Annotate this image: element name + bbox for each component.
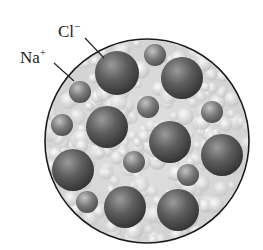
sodium-symbol: Na	[20, 48, 40, 67]
sodium-ion	[177, 164, 199, 186]
chloride-ion	[201, 134, 243, 176]
chloride-ion	[104, 186, 146, 228]
chloride-ion	[161, 57, 203, 99]
chloride-ion	[157, 189, 199, 231]
chloride-ion	[95, 51, 139, 95]
water-molecule	[217, 89, 226, 98]
sodium-ion	[123, 151, 145, 173]
sodium-ion	[137, 96, 159, 118]
water-molecule	[169, 112, 178, 121]
water-molecule	[95, 148, 105, 158]
chloride-symbol: Cl	[58, 22, 74, 41]
solution-region	[38, 35, 255, 247]
water-molecule	[241, 136, 255, 150]
water-molecule	[227, 181, 236, 190]
sodium-label: Na+	[20, 49, 46, 66]
chloride-ion	[149, 121, 191, 163]
chloride-charge: −	[74, 20, 80, 32]
water-molecule	[83, 211, 98, 226]
water-molecule	[176, 108, 193, 125]
chloride-ion	[86, 106, 128, 148]
sodium-ion	[69, 81, 91, 103]
chloride-ion	[52, 149, 94, 191]
water-molecule	[85, 102, 94, 111]
water-molecule	[138, 130, 151, 143]
sodium-ion	[51, 114, 73, 136]
sodium-ion	[76, 191, 98, 213]
water-molecule	[227, 109, 236, 118]
sodium-ion	[144, 44, 166, 66]
sodium-ion	[201, 101, 223, 123]
sodium-charge: +	[40, 46, 46, 58]
water-molecule	[144, 225, 153, 234]
water-molecule	[219, 119, 232, 132]
chloride-label: Cl−	[58, 23, 80, 40]
water-molecule	[213, 181, 228, 196]
water-molecule	[109, 175, 119, 185]
water-molecule	[97, 166, 111, 180]
nacl-solution-diagram	[0, 0, 263, 250]
